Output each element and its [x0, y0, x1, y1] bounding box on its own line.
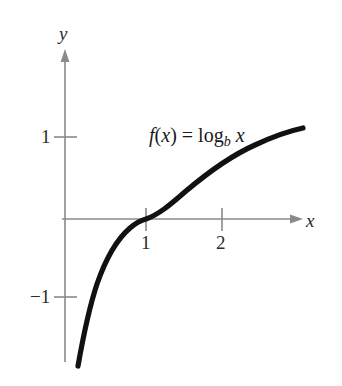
- y-tick-label-minus-1: −1: [30, 287, 50, 306]
- log-base: b: [224, 134, 231, 149]
- function-argument: x: [161, 124, 170, 146]
- x-axis-arrowhead: [290, 215, 303, 224]
- equals-sign: =: [182, 124, 193, 146]
- graph-canvas: [0, 0, 342, 386]
- function-equation-label: f(x)=logbx: [149, 125, 245, 149]
- y-tick-label-1: 1: [41, 127, 51, 146]
- log-word: log: [198, 124, 224, 146]
- logarithmic-function-figure: y x 1 −1 1 2 f(x)=logbx: [0, 0, 342, 386]
- paren-close: ): [170, 124, 177, 146]
- x-tick-label-2: 2: [216, 233, 226, 252]
- x-axis-label: x: [306, 211, 314, 230]
- logarithm-curve: [78, 128, 303, 366]
- x-tick-label-1: 1: [141, 233, 151, 252]
- y-axis-arrowhead: [61, 49, 70, 62]
- y-axis-label: y: [59, 24, 67, 43]
- log-variable: x: [236, 124, 245, 146]
